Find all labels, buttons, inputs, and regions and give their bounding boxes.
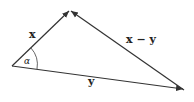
label-alpha: α <box>24 56 30 66</box>
label-x: x <box>29 28 36 41</box>
vector-y-arrow <box>12 66 183 89</box>
label-x-minus-y: x − y <box>126 33 156 46</box>
diagram-svg: x x − y y α <box>0 0 194 102</box>
angle-arc <box>31 48 37 69</box>
label-y: y <box>87 75 95 88</box>
vector-x-arrow <box>12 11 69 66</box>
vector-diagram: x x − y y α <box>0 0 194 102</box>
